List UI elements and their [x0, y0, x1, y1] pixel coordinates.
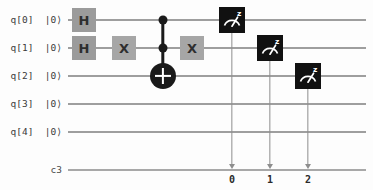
gate-x-q1-second[interactable]: X	[180, 36, 204, 60]
toffoli-control-dot-q1[interactable]	[159, 44, 168, 53]
gate-measure-q0[interactable]: z	[219, 7, 245, 33]
quantum-circuit-diagram: q[0] |0⟩ q[1] |0⟩ q[2] |0⟩ q[3] |0⟩ q[4]…	[0, 0, 373, 190]
wire-label-q4: q[4] |0⟩	[11, 127, 62, 137]
wire-q0	[68, 19, 366, 21]
measure-z-icon: z	[295, 63, 321, 89]
clbit-index-2: 2	[305, 175, 311, 185]
svg-text:z: z	[313, 65, 317, 74]
gate-x-q1-second-label: X	[187, 41, 197, 56]
gate-measure-q1[interactable]: z	[257, 35, 283, 61]
gate-x-q1-first[interactable]: X	[112, 36, 136, 60]
wire-q2	[68, 75, 366, 77]
gate-h-q0-label: H	[79, 13, 90, 28]
measure-drop-line-2	[307, 76, 308, 166]
gate-h-q1-label: H	[79, 41, 90, 56]
wire-q3	[68, 103, 366, 105]
gate-h-q0[interactable]: H	[72, 8, 96, 32]
wire-label-q0: q[0] |0⟩	[11, 15, 62, 25]
wire-label-q3: q[3] |0⟩	[11, 99, 62, 109]
measure-z-icon: z	[257, 35, 283, 61]
svg-text:z: z	[275, 37, 279, 46]
gate-measure-q2[interactable]: z	[295, 63, 321, 89]
measure-drop-arrow-1	[267, 164, 273, 169]
clbit-index-1: 1	[267, 175, 273, 185]
wire-q4	[68, 131, 366, 133]
creg-label-c3: c3	[51, 165, 62, 175]
svg-text:z: z	[237, 9, 241, 18]
measure-drop-arrow-2	[305, 164, 311, 169]
wire-label-q2: q[2] |0⟩	[11, 71, 62, 81]
measure-drop-arrow-0	[229, 164, 235, 169]
wire-label-q1: q[1] |0⟩	[11, 43, 62, 53]
gate-h-q1[interactable]: H	[72, 36, 96, 60]
toffoli-control-dot-q0[interactable]	[159, 16, 168, 25]
measure-drop-line-1	[269, 48, 270, 166]
wire-c3	[68, 169, 366, 171]
toffoli-target-q2[interactable]	[150, 63, 176, 89]
measure-drop-line-0	[231, 20, 232, 166]
gate-x-q1-first-label: X	[119, 41, 129, 56]
clbit-index-0: 0	[229, 175, 235, 185]
measure-z-icon: z	[219, 7, 245, 33]
